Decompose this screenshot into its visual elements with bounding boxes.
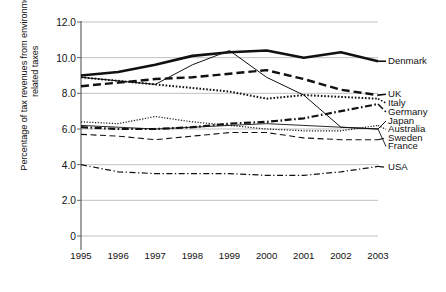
legend-connector-uk xyxy=(378,94,386,95)
series-line-japan xyxy=(81,51,378,129)
plot-area xyxy=(0,0,446,292)
x-tick-label: 2002 xyxy=(330,250,351,261)
x-tick-label: 1996 xyxy=(107,250,128,261)
series-line-usa xyxy=(81,165,378,176)
legend-item-denmark: Denmark xyxy=(388,56,427,66)
legend-item-usa: USA xyxy=(388,162,408,172)
legend-connector-usa xyxy=(378,166,386,167)
legend-connector-germany xyxy=(378,104,386,112)
legend-connector-japan xyxy=(378,121,386,129)
series-line-sweden xyxy=(81,133,378,140)
legend-connector-italy xyxy=(378,99,386,103)
x-tick-label: 2001 xyxy=(293,250,314,261)
legend-item-france: France xyxy=(388,141,418,151)
chart-container: Percentage of tax revenues from environm… xyxy=(0,0,446,292)
x-tick-label: 1995 xyxy=(70,250,91,261)
legend-connector-france xyxy=(378,129,386,146)
series-line-uk xyxy=(81,70,378,95)
x-axis-tick-labels: 199519961997199819992000200120022003 xyxy=(0,250,446,270)
x-tick-label: 1998 xyxy=(182,250,203,261)
x-tick-label: 1997 xyxy=(145,250,166,261)
x-tick-label: 2000 xyxy=(256,250,277,261)
x-tick-label: 2003 xyxy=(367,250,388,261)
x-tick-label: 1999 xyxy=(219,250,240,261)
series-line-denmark xyxy=(81,51,378,76)
